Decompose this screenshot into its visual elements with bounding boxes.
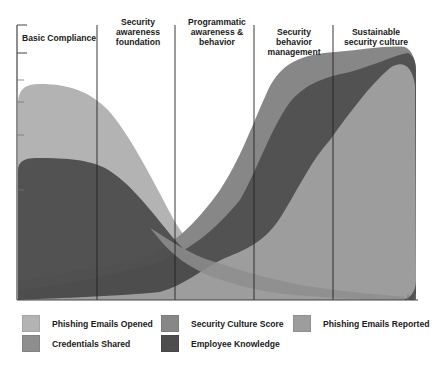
legend-item-credentials-shared: Credentials Shared [22,335,130,352]
legend-label: Security Culture Score [191,319,284,329]
legend-swatch [161,315,179,332]
phase-label-awareness-foundation: Security awareness foundation [108,17,168,47]
legend-swatch [22,315,40,332]
legend-label: Employee Knowledge [191,339,280,349]
chart-area: Basic Compliance Security awareness foun… [0,0,436,310]
phase-label-basic-compliance: Basic Compliance [22,33,97,43]
phase-label-programmatic: Programmatic awareness & behavior [183,17,251,47]
legend-swatch [293,315,311,332]
legend-label: Phishing Emails Opened [52,319,153,329]
phase-label-sustainable-culture: Sustainable security culture [340,27,412,47]
phase-label-behavior-management: Security behavior management [258,27,330,57]
legend: Phishing Emails Opened Credentials Share… [0,310,436,365]
legend-label: Phishing Emails Reported [323,319,430,329]
legend-item-security-culture: Security Culture Score [161,315,284,332]
legend-item-phishing-reported: Phishing Emails Reported [293,315,430,332]
legend-item-phishing-opened: Phishing Emails Opened [22,315,153,332]
legend-label: Credentials Shared [52,339,130,349]
legend-item-employee-knowledge: Employee Knowledge [161,335,280,352]
legend-swatch [22,335,40,352]
legend-swatch [161,335,179,352]
